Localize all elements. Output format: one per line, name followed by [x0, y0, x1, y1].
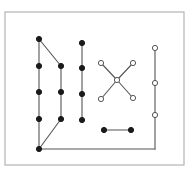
graph-node-open[interactable] [152, 112, 157, 117]
diagram-canvas [0, 0, 191, 176]
graph-node-open[interactable] [152, 45, 157, 50]
graph-node-filled[interactable] [36, 116, 41, 121]
graph-node-open[interactable] [130, 60, 135, 65]
graph-node-filled[interactable] [79, 65, 84, 70]
graph-node-filled[interactable] [36, 89, 41, 94]
graph-edge [101, 80, 117, 99]
graph-edge [39, 39, 61, 66]
graph-node-filled[interactable] [58, 63, 63, 68]
graph-node-open[interactable] [152, 80, 157, 85]
graph-node-open[interactable] [98, 60, 103, 65]
graph-node-filled[interactable] [79, 117, 84, 122]
edges-layer [39, 39, 155, 149]
node-link-graph [0, 0, 191, 176]
graph-edge [101, 63, 117, 80]
plot-border [5, 12, 184, 165]
graph-node-open[interactable] [98, 96, 103, 101]
graph-node-open[interactable] [114, 77, 119, 82]
graph-node-open[interactable] [130, 95, 135, 100]
graph-node-filled[interactable] [36, 36, 41, 41]
graph-node-filled[interactable] [101, 127, 106, 132]
graph-node-filled[interactable] [58, 116, 63, 121]
graph-edge [39, 119, 61, 149]
graph-node-filled[interactable] [58, 89, 63, 94]
graph-node-filled[interactable] [36, 146, 41, 151]
graph-node-filled[interactable] [79, 40, 84, 45]
graph-node-filled[interactable] [79, 91, 84, 96]
graph-node-filled[interactable] [36, 63, 41, 68]
graph-node-filled[interactable] [128, 127, 133, 132]
graph-edge [117, 80, 133, 98]
graph-edge [117, 63, 133, 80]
nodes-layer [36, 36, 157, 151]
